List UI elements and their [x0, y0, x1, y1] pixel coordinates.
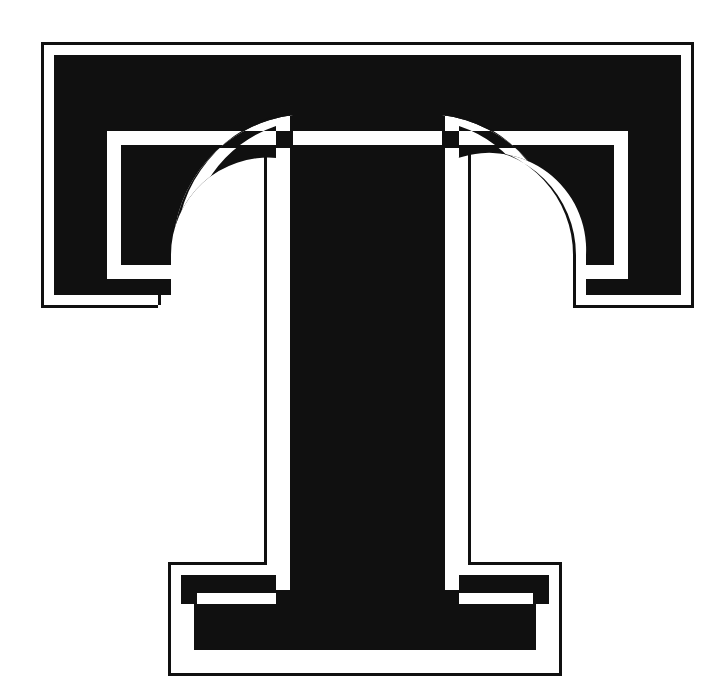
letter-t-glyph: T [0, 0, 705, 699]
glyph-canvas: Ornamental slab-serif capital letter T w… [0, 0, 705, 699]
